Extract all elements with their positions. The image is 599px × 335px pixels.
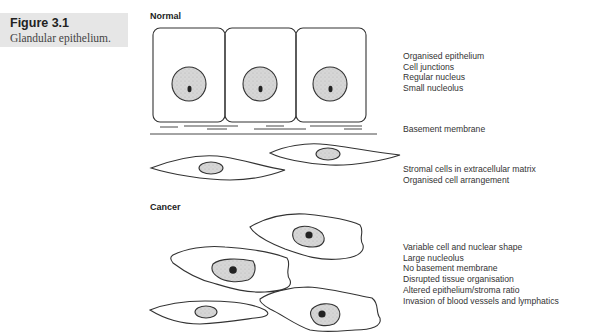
note: Invasion of blood vessels and lymphatics (403, 296, 559, 307)
note: Cell junctions (403, 62, 484, 73)
note: Organised cell arrangement (403, 175, 536, 186)
note: Regular nucleus (403, 72, 484, 83)
cancer-notes: Variable cell and nuclear shape Large nu… (403, 242, 559, 306)
note: Large nucleolus (403, 253, 559, 264)
note: Altered epithelium/stroma ratio (403, 285, 559, 296)
basement-membrane (150, 126, 377, 134)
cancer-cell (150, 301, 268, 324)
normal-epithelial-cell (225, 28, 296, 122)
stromal-cell (151, 156, 285, 180)
note: Small nucleolus (403, 83, 484, 94)
normal-epithelial-cell (153, 28, 225, 122)
note: Organised epithelium (403, 51, 484, 62)
cancer-cell (260, 287, 380, 332)
note: No basement membrane (403, 263, 559, 274)
stromal-cell (270, 144, 400, 165)
stroma-notes: Stromal cells in extracellular matrix Or… (403, 164, 536, 185)
note: Stromal cells in extracellular matrix (403, 164, 536, 175)
cancer-cell (171, 246, 291, 292)
normal-epithelial-cell (296, 28, 366, 122)
membrane-notes: Basement membrane (403, 124, 485, 135)
note: Disrupted tissue organisation (403, 274, 559, 285)
normal-cell-notes: Organised epithelium Cell junctions Regu… (403, 51, 484, 94)
note: Variable cell and nuclear shape (403, 242, 559, 253)
note: Basement membrane (403, 124, 485, 135)
